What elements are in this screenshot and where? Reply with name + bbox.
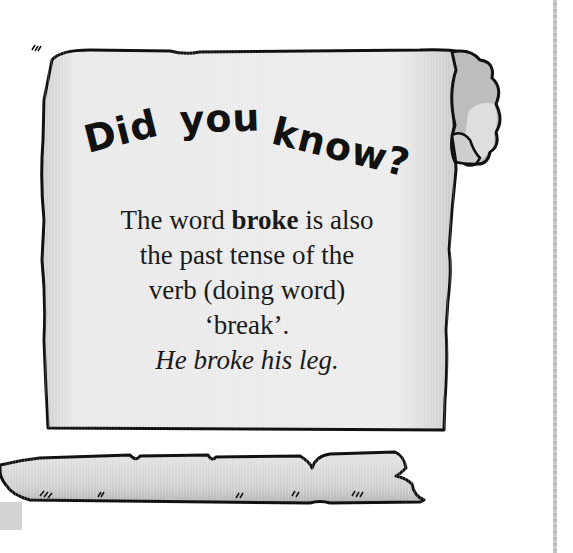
example-sentence: He broke his leg. <box>62 343 432 378</box>
book-page: Did you know? The word broke is also the… <box>0 0 573 553</box>
fact-line-1: The word broke is also <box>62 203 432 238</box>
fact-text: The word broke is also the past tense of… <box>62 203 432 378</box>
fact-line-4: ‘break’. <box>62 308 432 343</box>
page-edge <box>553 0 557 553</box>
page-corner-fragment <box>0 502 22 530</box>
fact-line-2: the past tense of the <box>62 238 432 273</box>
fact-line-3: verb (doing word) <box>62 273 432 308</box>
highlighted-word: broke <box>231 205 298 235</box>
